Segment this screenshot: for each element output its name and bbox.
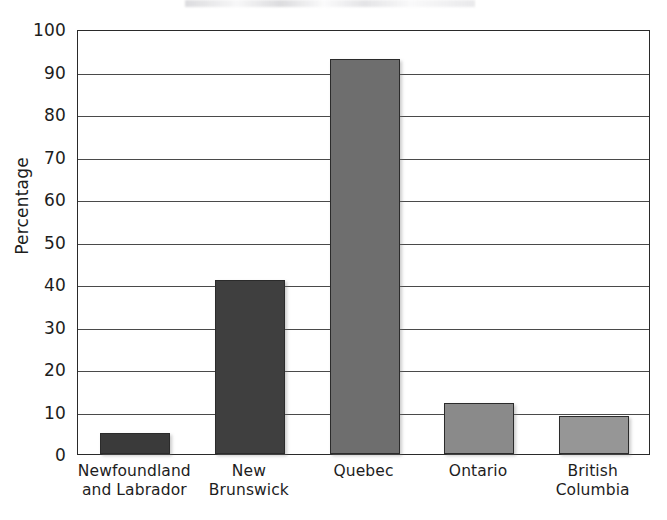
x-axis-tick-label-line: Columbia: [535, 481, 650, 500]
bar: [100, 433, 170, 454]
y-axis-tick-label: 10: [6, 403, 66, 423]
x-axis-tick-labels: Newfoundlandand LabradorNewBrunswickQueb…: [77, 462, 650, 520]
y-axis-tick-label: 70: [6, 148, 66, 168]
y-axis-tick-label: 30: [6, 318, 66, 338]
y-axis-tick-label: 20: [6, 360, 66, 380]
x-axis-tick-label-line: Ontario: [421, 462, 536, 481]
x-axis-tick-label: Quebec: [306, 462, 421, 481]
x-axis-tick-label: BritishColumbia: [535, 462, 650, 500]
x-axis-tick-label: Ontario: [421, 462, 536, 481]
x-axis-tick-label-line: British: [535, 462, 650, 481]
bar: [559, 416, 629, 454]
x-axis-tick-label: Newfoundlandand Labrador: [77, 462, 192, 500]
y-axis-tick-label: 90: [6, 63, 66, 83]
bars-layer: [78, 31, 649, 454]
y-axis-tick-label: 100: [6, 20, 66, 40]
y-axis-tick-label: 50: [6, 233, 66, 253]
x-axis-tick-label-line: New: [192, 462, 307, 481]
x-axis-tick-label: NewBrunswick: [192, 462, 307, 500]
y-axis-tick-label: 40: [6, 275, 66, 295]
bar: [330, 59, 400, 454]
x-axis-tick-label-line: Newfoundland: [77, 462, 192, 481]
plot-area: [77, 30, 650, 455]
bar-chart: Percentage 1009080706050403020100 Newfou…: [0, 0, 667, 520]
bar: [215, 280, 285, 454]
y-axis-tick-label: 80: [6, 105, 66, 125]
x-axis-tick-label-line: and Labrador: [77, 481, 192, 500]
y-axis-tick-label: 0: [6, 445, 66, 465]
y-axis-tick-label: 60: [6, 190, 66, 210]
x-axis-tick-label-line: Brunswick: [192, 481, 307, 500]
scan-artifact: [185, 0, 475, 7]
x-axis-tick-label-line: Quebec: [306, 462, 421, 481]
y-axis-tick-labels: 1009080706050403020100: [0, 0, 78, 520]
bar: [444, 403, 514, 454]
